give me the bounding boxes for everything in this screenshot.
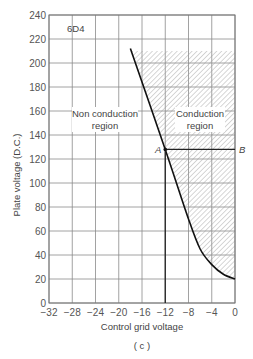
x-tick-label: −4 (206, 307, 218, 318)
conduction-label: Conduction (176, 108, 224, 119)
y-tick-label: 160 (29, 106, 46, 117)
y-tick-label: 40 (35, 250, 47, 261)
x-tick-label: −32 (41, 307, 58, 318)
y-tick-label: 100 (29, 178, 46, 189)
x-axis-label: Control grid voltage (101, 321, 183, 332)
y-tick-label: 140 (29, 130, 46, 141)
y-tick-label: 220 (29, 34, 46, 45)
tube-type-label: 6D4 (67, 23, 84, 34)
conduction-label-2: region (187, 120, 213, 131)
conduction-region-shading (131, 51, 235, 279)
x-tick-label: −8 (183, 307, 195, 318)
y-tick-label: 180 (29, 82, 46, 93)
x-tick-label: −20 (110, 307, 127, 318)
y-tick-label: 200 (29, 58, 46, 69)
y-tick-label: 0 (40, 298, 46, 309)
x-tick-label: −16 (134, 307, 151, 318)
point-a-marker (163, 148, 167, 152)
x-tick-label: 0 (232, 307, 238, 318)
x-tick-label: −24 (87, 307, 104, 318)
x-tick-label: −12 (157, 307, 174, 318)
x-tick-label: −28 (64, 307, 81, 318)
chart: −32−28−24−20−16−12−8−4002040608010012014… (0, 0, 253, 359)
point-b-label: B (239, 144, 246, 155)
figure-caption: ( c ) (134, 340, 150, 351)
point-a-label: A (154, 144, 161, 155)
non-conduction-label: Non conduction (72, 108, 138, 119)
y-tick-label: 120 (29, 154, 46, 165)
y-tick-label: 240 (29, 10, 46, 21)
y-tick-label: 80 (35, 202, 47, 213)
y-tick-label: 20 (35, 274, 47, 285)
y-tick-label: 60 (35, 226, 47, 237)
y-axis-label: Plate voltage (D.C.) (11, 134, 22, 217)
non-conduction-label-2: region (92, 120, 118, 131)
